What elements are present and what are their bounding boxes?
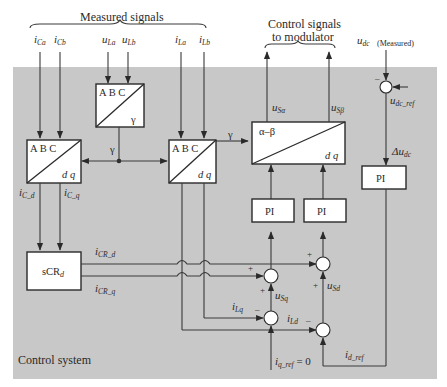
gamma-label-left: γ — [109, 144, 115, 155]
input-uLa-label: uLa — [102, 33, 116, 47]
svg-text:+: + — [313, 280, 318, 290]
udc-measured-label: udc (Measured) — [357, 34, 414, 48]
control-system-diagram: Control system Measured signals Control … — [0, 0, 447, 387]
svg-text:γ: γ — [130, 114, 136, 125]
svg-text:–: – — [374, 73, 380, 83]
svg-text:+: + — [260, 285, 265, 295]
pi-d-block: PI — [304, 199, 346, 222]
sum-junction-iq-error — [264, 311, 278, 325]
svg-text:PI: PI — [317, 206, 327, 217]
control-system-label: Control system — [18, 353, 92, 367]
svg-text:A B C: A B C — [99, 87, 125, 98]
svg-text:d q: d q — [198, 169, 211, 180]
input-iLa-label: iLa — [175, 33, 186, 47]
input-iCa-label: iCa — [34, 33, 46, 47]
svg-text:+: + — [307, 249, 312, 259]
svg-text:PI: PI — [376, 173, 386, 184]
svg-text:udc: udc — [357, 34, 370, 48]
abc-dq-load-block: A B C d q — [169, 140, 216, 183]
svg-text:α–β: α–β — [259, 126, 275, 137]
measured-signals-header: Measured signals — [30, 10, 206, 28]
svg-text:(Measured): (Measured) — [377, 39, 414, 48]
input-iCb-label: iCb — [54, 33, 66, 47]
svg-text:d q: d q — [62, 169, 75, 180]
control-signals-line2: to modulator — [272, 30, 334, 44]
input-uLb-label: uLb — [122, 33, 136, 47]
dq-alphabeta-block: α–β d q — [252, 122, 345, 164]
scr-block: sCRd — [27, 252, 81, 290]
pll-block: A B C γ — [96, 84, 144, 127]
svg-text:–: – — [305, 315, 311, 325]
sum-junction-usd — [316, 257, 330, 271]
svg-text:PI: PI — [265, 206, 275, 217]
control-signals-header: Control signals to modulator — [265, 17, 341, 48]
sum-junction-usq — [264, 269, 278, 283]
svg-text:A B C: A B C — [172, 143, 198, 154]
svg-text:+: + — [248, 263, 253, 273]
abc-dq-capacitor-block: A B C d q — [27, 140, 81, 183]
sum-junction-udc — [380, 81, 392, 93]
gamma-label-right: γ — [227, 129, 233, 140]
pi-q-block: PI — [252, 199, 294, 222]
pi-dc-block: PI — [362, 166, 406, 189]
input-iLb-label: iLb — [199, 33, 210, 47]
svg-text:d q: d q — [325, 150, 338, 161]
sum-junction-id-error — [316, 323, 330, 337]
svg-text:–: – — [254, 304, 260, 314]
control-system-region — [13, 67, 437, 379]
control-signals-line1: Control signals — [268, 17, 341, 31]
svg-text:A B C: A B C — [30, 143, 56, 154]
